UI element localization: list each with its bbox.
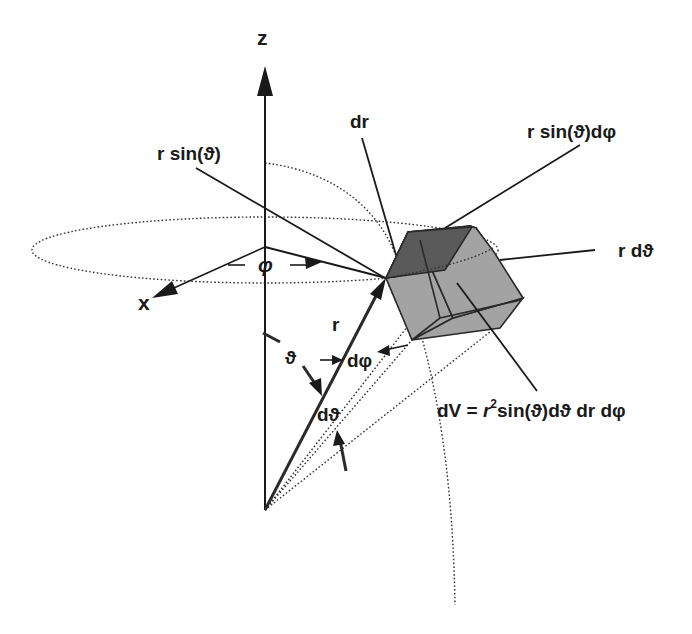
theta-arrowhead-icon — [309, 378, 322, 396]
r-dtheta-label: r dϑ — [618, 240, 654, 261]
x-axis-label: x — [138, 291, 150, 314]
leader-r-sin-theta — [196, 168, 385, 278]
x-axis-arrowhead-icon — [152, 281, 178, 298]
dtheta-arrowhead-icon — [333, 430, 345, 446]
dtheta-label: dϑ — [317, 404, 341, 425]
volume-formula-rest: sin(ϑ)dϑ dr dφ — [497, 400, 626, 421]
phi-label: φ — [258, 253, 273, 276]
volume-formula: dV = r2sin(ϑ)dϑ dr dφ — [437, 397, 626, 421]
projection-line — [265, 247, 386, 278]
volume-formula-prefix: dV = — [437, 400, 483, 421]
spherical-volume-diagram: z x r sin(ϑ) dr r sin(ϑ)dφ r dϑ φ r ϑ dφ… — [0, 0, 692, 634]
r-sin-theta-label: r sin(ϑ) — [157, 143, 221, 164]
r-sin-theta-dphi-label: r sin(ϑ)dφ — [527, 121, 616, 142]
meridian-arc — [265, 163, 455, 605]
r-vector-arrowhead-icon — [370, 278, 386, 300]
leader-dr — [362, 138, 396, 255]
dphi-arrowhead-right-icon — [377, 345, 390, 356]
leader-r-sin-theta-dphi — [445, 145, 580, 228]
theta-label: ϑ — [285, 347, 297, 368]
r-vector — [265, 292, 378, 510]
dphi-label: dφ — [347, 350, 372, 371]
z-axis-label: z — [257, 26, 268, 49]
r-label: r — [332, 314, 340, 335]
dr-label: dr — [350, 111, 370, 132]
leader-r-dtheta — [500, 250, 595, 260]
z-axis-arrowhead-icon — [257, 66, 273, 96]
x-axis — [165, 247, 265, 292]
